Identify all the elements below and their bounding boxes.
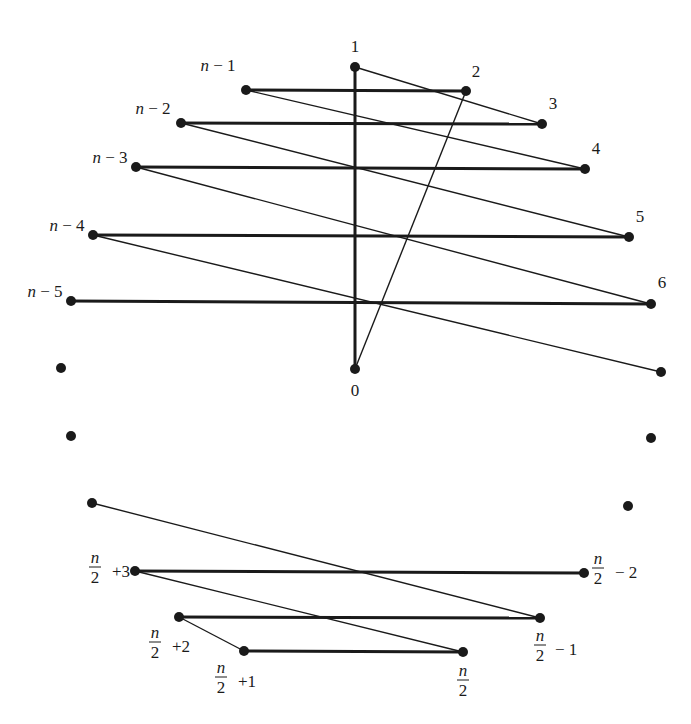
svg-text:+3: +3 [112, 562, 130, 581]
edge-v1-v3 [355, 67, 542, 124]
vertex-vh [458, 647, 468, 657]
vertex-vhm1 [535, 613, 545, 623]
svg-text:n: n [151, 623, 160, 642]
svg-text:2: 2 [459, 681, 468, 700]
svg-text:n: n [536, 626, 545, 645]
edge-vn1-v2 [246, 90, 466, 91]
vertex-label-v0: 0 [351, 381, 360, 400]
svg-text:2: 2 [536, 646, 545, 665]
svg-text:2: 2 [594, 569, 603, 588]
edge-vn5-v6 [71, 301, 651, 304]
fraction-label-vh: n2 [457, 661, 469, 700]
vertex-label-vn4: n − 4 [49, 216, 85, 235]
vertex-vn5 [66, 296, 76, 306]
fraction-label-vhm2: n2− 2 [592, 549, 637, 588]
vertex-r8 [646, 433, 656, 443]
vertex-label-v2: 2 [472, 62, 481, 81]
edge-vn3-v4 [136, 167, 585, 169]
fraction-label-vh2: n2+2 [149, 623, 190, 662]
vertex-v4 [580, 164, 590, 174]
vertex-v0 [350, 364, 360, 374]
vertex-label-v3: 3 [549, 94, 558, 113]
svg-text:− 2: − 2 [615, 563, 637, 582]
vertex-v5 [624, 232, 634, 242]
graph-diagram: 1234560n − 1n − 2n − 3n − 4n − 5n2+3n2− … [0, 0, 691, 724]
bold-edges [71, 67, 651, 652]
vertex-vhm2 [579, 568, 589, 578]
vertex-l1 [56, 363, 66, 373]
vertex-v6 [646, 299, 656, 309]
vertex-labels: 1234560n − 1n − 2n − 3n − 4n − 5n2+3n2− … [27, 37, 666, 700]
vertex-r9 [623, 501, 633, 511]
edge-vn4-v5 [93, 235, 629, 237]
vertex-label-v4: 4 [592, 139, 601, 158]
svg-text:n: n [217, 658, 226, 677]
svg-text:− 1: − 1 [555, 640, 577, 659]
vertex-l2 [66, 431, 76, 441]
vertex-label-vn2: n − 2 [135, 99, 170, 118]
svg-text:+2: +2 [172, 637, 190, 656]
vertex-label-vn1: n − 1 [200, 56, 235, 75]
vertex-v2 [461, 86, 471, 96]
svg-text:n: n [594, 549, 603, 568]
vertex-v1 [350, 62, 360, 72]
vertex-r7 [656, 367, 666, 377]
vertex-l3 [87, 498, 97, 508]
svg-text:2: 2 [91, 568, 100, 587]
vertex-label-v1: 1 [351, 37, 360, 56]
vertex-vn1 [241, 85, 251, 95]
vertex-label-vn5: n − 5 [27, 282, 62, 301]
edge-vh3-vhm2 [135, 571, 584, 573]
vertex-vn4 [88, 230, 98, 240]
edge-vn1-v4 [246, 90, 585, 169]
vertex-v3 [537, 119, 547, 129]
vertex-vh2 [174, 612, 184, 622]
edge-vn2-v5 [181, 123, 629, 237]
edge-l3-vhm1 [92, 503, 540, 618]
edge-vh1-vh [244, 651, 463, 652]
svg-text:+1: +1 [238, 672, 256, 691]
fraction-label-vh3: n2+3 [89, 548, 130, 587]
vertex-label-v5: 5 [636, 207, 645, 226]
svg-text:n: n [459, 661, 468, 680]
vertex-label-vn3: n − 3 [92, 148, 127, 167]
vertices [56, 62, 666, 657]
vertex-vh3 [130, 566, 140, 576]
thin-edges [92, 67, 661, 652]
edge-vh2-vhm1 [179, 617, 540, 618]
vertex-label-v6: 6 [658, 273, 667, 292]
fraction-label-vhm1: n2− 1 [534, 626, 577, 665]
fraction-label-vh1: n2+1 [215, 658, 256, 697]
edge-vn2-v3 [181, 123, 542, 124]
svg-text:2: 2 [217, 678, 226, 697]
svg-text:2: 2 [151, 643, 160, 662]
vertex-vh1 [239, 646, 249, 656]
svg-text:n: n [91, 548, 100, 567]
vertex-vn3 [131, 162, 141, 172]
vertex-vn2 [176, 118, 186, 128]
